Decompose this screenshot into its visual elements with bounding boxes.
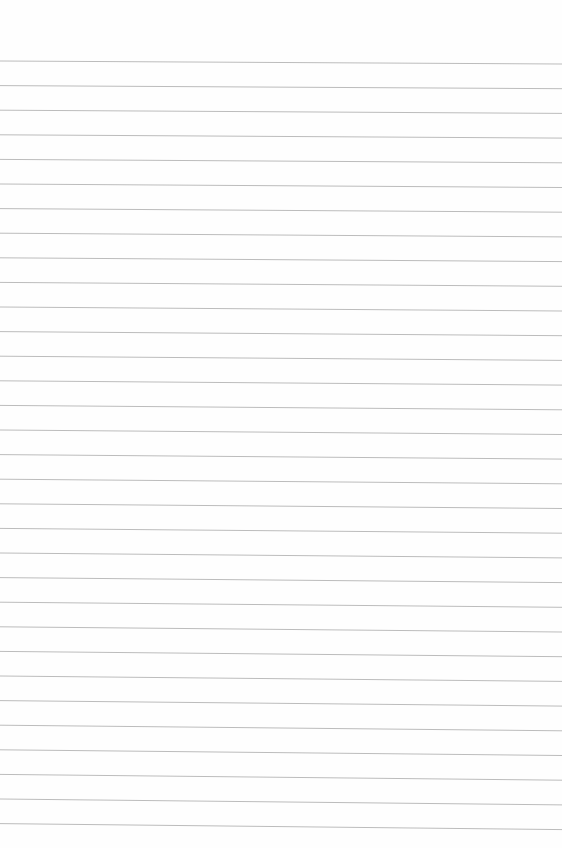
ruled-line <box>0 578 562 583</box>
ruled-line <box>0 110 562 113</box>
ruled-line <box>0 528 562 533</box>
ruled-line <box>0 701 562 707</box>
ruled-line <box>0 233 562 237</box>
ruled-line <box>0 209 562 213</box>
ruled-line <box>0 86 562 89</box>
ruled-line <box>0 61 562 64</box>
ruled-line <box>0 184 562 188</box>
ruled-line <box>0 307 562 311</box>
ruled-line <box>0 479 562 484</box>
ruled-line <box>0 135 562 138</box>
ruled-line <box>0 455 562 460</box>
ruled-line <box>0 356 562 360</box>
ruled-line <box>0 602 562 607</box>
ruled-line <box>0 651 562 656</box>
ruled-lines <box>0 0 562 848</box>
ruled-line <box>0 430 562 435</box>
ruled-line <box>0 159 562 162</box>
ruled-line <box>0 332 562 336</box>
ruled-line <box>0 824 562 830</box>
ruled-line <box>0 627 562 632</box>
ruled-line <box>0 405 562 409</box>
ruled-line <box>0 258 562 262</box>
ruled-line <box>0 381 562 385</box>
ruled-line <box>0 553 562 558</box>
ruled-line <box>0 725 562 731</box>
ruled-line <box>0 282 562 286</box>
ruled-line <box>0 799 562 805</box>
ruled-line <box>0 676 562 681</box>
ruled-line <box>0 774 562 780</box>
ruled-line <box>0 504 562 509</box>
ruled-line <box>0 750 562 756</box>
lined-paper-sheet <box>0 0 562 848</box>
